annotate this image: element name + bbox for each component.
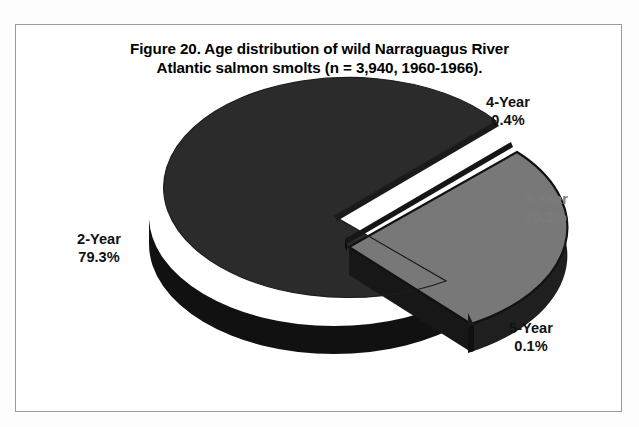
slice-label-3year: 3-Year 20.2% — [486, 190, 606, 226]
slice-label-4year: 4-Year 0.4% — [448, 93, 568, 129]
figure-frame: Figure 20. Age distribution of wild Narr… — [15, 24, 622, 412]
slice-label-5year: 5-Year 0.1% — [471, 319, 591, 355]
slice-label-2year: 2-Year 79.3% — [34, 230, 164, 266]
